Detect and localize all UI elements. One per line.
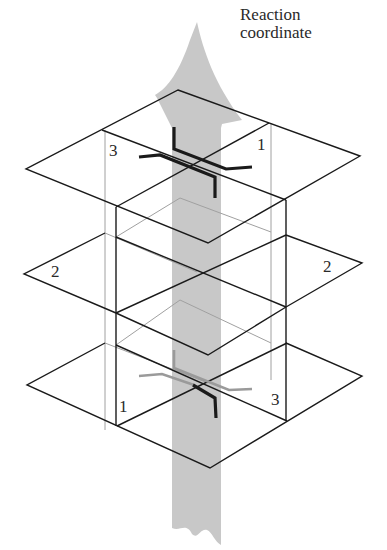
middle-plane-right-label: 2: [323, 258, 332, 275]
reaction-coordinate-label: Reaction coordinate: [240, 6, 312, 42]
bottom-plane-left-label: 1: [119, 398, 128, 415]
middle-plane-left-label: 2: [51, 263, 60, 280]
top-plane-right-label: 1: [257, 136, 266, 153]
bottom-plane-right-label: 3: [271, 391, 280, 408]
top-plane-left-label: 3: [109, 142, 118, 159]
axis-label-line1: Reaction: [240, 6, 312, 24]
axis-label-line2: coordinate: [240, 24, 312, 42]
